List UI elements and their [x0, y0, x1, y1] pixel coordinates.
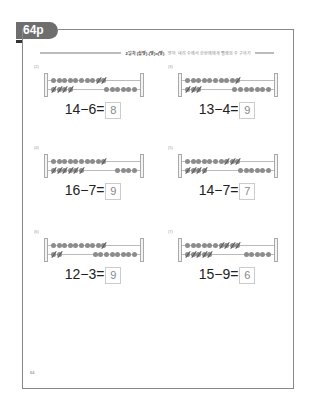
answer-box[interactable]: 7 [239, 183, 255, 200]
bead [249, 87, 254, 92]
crossed-bead [73, 168, 78, 173]
bead [232, 87, 237, 92]
bead [62, 243, 67, 248]
crossed-bead [101, 159, 106, 164]
answer-box[interactable]: 9 [105, 267, 121, 284]
bead [115, 252, 120, 257]
bead-frame-post-left [178, 154, 182, 178]
equation: 16−7=9 [34, 182, 152, 200]
crossed-bead [230, 159, 235, 164]
bead [260, 87, 265, 92]
problem-label: (2) [34, 64, 39, 69]
crossed-bead [51, 252, 56, 257]
bead [185, 78, 190, 83]
bead [126, 252, 131, 257]
equation-expression: 14−6= [65, 101, 105, 117]
bead [196, 159, 201, 164]
crossed-bead [207, 252, 212, 257]
bead [115, 168, 120, 173]
bead [249, 252, 254, 257]
crossed-bead [196, 87, 201, 92]
bead [51, 78, 56, 83]
bead [266, 87, 271, 92]
crossed-bead [202, 168, 207, 173]
equation: 13−4=9 [168, 101, 286, 119]
header-rule-left [40, 52, 121, 54]
bead [132, 252, 137, 257]
bead [79, 78, 84, 83]
crossed-bead [51, 168, 56, 173]
bead-frame-post-right [274, 73, 278, 97]
crossed-bead [202, 252, 207, 257]
bead [244, 87, 249, 92]
crossed-bead [51, 87, 56, 92]
bead [230, 78, 235, 83]
header-rule-right [255, 52, 274, 54]
bead [132, 87, 137, 92]
bead [57, 78, 62, 83]
bead [266, 168, 271, 173]
equation-expression: 16−7= [65, 182, 105, 198]
bead [110, 252, 115, 257]
problem-card: (4)16−7=9 [34, 145, 152, 205]
crossed-bead [230, 243, 235, 248]
answer-box[interactable]: 9 [105, 183, 121, 200]
bead-frame [178, 154, 278, 178]
bead [93, 252, 98, 257]
bead [96, 243, 101, 248]
bead-frame [178, 73, 278, 97]
crossed-bead [219, 243, 224, 248]
bead [260, 168, 265, 173]
answer-box[interactable]: 6 [239, 267, 255, 284]
bead [224, 78, 229, 83]
crossed-bead [185, 168, 190, 173]
bead [249, 168, 254, 173]
bead-frame-post-left [44, 73, 48, 97]
bead [202, 78, 207, 83]
bead-frame-post-right [274, 238, 278, 262]
crossed-bead [79, 168, 84, 173]
bead [68, 78, 73, 83]
answer-box[interactable]: 9 [239, 102, 255, 119]
bead [85, 159, 90, 164]
bead [98, 252, 103, 257]
bead [213, 159, 218, 164]
bead [90, 78, 95, 83]
problem-label: (7) [168, 229, 173, 234]
bead [68, 159, 73, 164]
bead-frame [44, 154, 144, 178]
section-subtitle: 받아 내려 수에서 한번에에게 뺄셈의 수 구하기 [168, 50, 251, 56]
bead-frame-post-left [44, 154, 48, 178]
bead [79, 159, 84, 164]
answer-box[interactable]: 8 [105, 102, 121, 119]
problem-label: (6) [34, 229, 39, 234]
bead-frame [44, 238, 144, 262]
bead [244, 252, 249, 257]
problem-card: (7)15−9=6 [168, 229, 286, 289]
bead [185, 243, 190, 248]
bead [255, 168, 260, 173]
crossed-bead [57, 87, 62, 92]
bead [126, 168, 131, 173]
problem-card: (6)12−3=9 [34, 229, 152, 289]
bead [121, 252, 126, 257]
problem-card: (5)14−7=7 [168, 145, 286, 205]
bead-frame-post-right [140, 73, 144, 97]
bead [57, 243, 62, 248]
bead [121, 87, 126, 92]
bead [104, 252, 109, 257]
bead-frame-post-right [274, 154, 278, 178]
crossed-bead [224, 243, 229, 248]
bead [238, 87, 243, 92]
bead-frame-post-right [140, 238, 144, 262]
crossed-bead [68, 87, 73, 92]
equation-expression: 13−4= [199, 101, 239, 117]
bead [219, 78, 224, 83]
bead [255, 87, 260, 92]
crossed-bead [235, 78, 240, 83]
bead [85, 78, 90, 83]
bead [51, 159, 56, 164]
bead [110, 87, 115, 92]
bead [191, 78, 196, 83]
crossed-bead [57, 168, 62, 173]
